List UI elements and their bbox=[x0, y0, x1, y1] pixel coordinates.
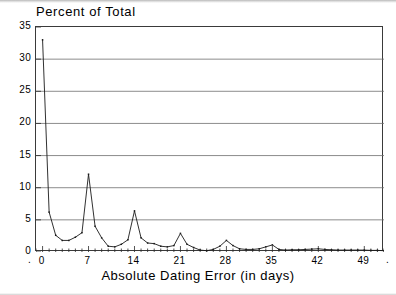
x-tick-label-49: 49 bbox=[350, 256, 376, 266]
x-tick-label-28: 28 bbox=[212, 256, 238, 266]
x-tick-label-0: 0 bbox=[29, 256, 55, 266]
chart-title: Percent of Total bbox=[36, 4, 136, 19]
y-tick-label-35: 35 bbox=[3, 21, 31, 31]
x-tick-label-21: 21 bbox=[166, 256, 192, 266]
y-tick-label-15: 15 bbox=[3, 150, 31, 160]
left-corner-mark: . bbox=[28, 254, 31, 265]
gridlines bbox=[36, 59, 384, 220]
x-tick-label-14: 14 bbox=[120, 256, 146, 266]
chart-figure: Percent of Total 05101520253035 07142128… bbox=[0, 0, 396, 295]
y-tick-label-30: 30 bbox=[3, 53, 31, 63]
plot-svg bbox=[36, 27, 384, 252]
y-tick-label-25: 25 bbox=[3, 85, 31, 95]
y-tick-label-5: 5 bbox=[3, 214, 31, 224]
plot-area bbox=[35, 26, 383, 251]
right-corner-mark: . bbox=[386, 254, 389, 265]
scan-edge-top bbox=[0, 0, 396, 3]
x-tick-label-35: 35 bbox=[258, 256, 284, 266]
data-series-line bbox=[43, 40, 384, 251]
y-tick-label-0: 0 bbox=[3, 246, 31, 256]
x-axis-title: Absolute Dating Error (in days) bbox=[0, 268, 396, 283]
x-tick-label-7: 7 bbox=[75, 256, 101, 266]
y-tick-marks bbox=[36, 27, 41, 252]
y-tick-label-20: 20 bbox=[3, 117, 31, 127]
y-tick-label-10: 10 bbox=[3, 182, 31, 192]
x-tick-label-42: 42 bbox=[304, 256, 330, 266]
